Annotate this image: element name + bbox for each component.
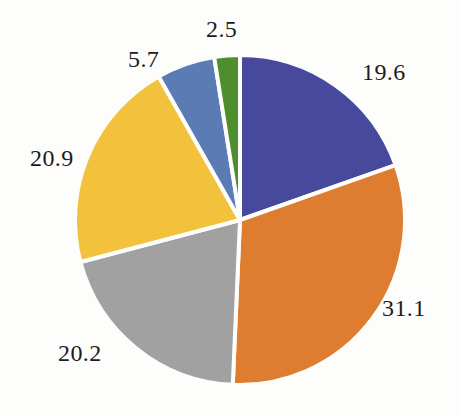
pie-label-5-7: 5.7 <box>128 47 159 71</box>
pie-label-31-1: 31.1 <box>382 296 426 320</box>
pie-slices-group <box>75 55 405 385</box>
pie-chart-figure: 19.6 31.1 20.2 20.9 5.7 2.5 <box>0 0 459 416</box>
pie-label-19-6: 19.6 <box>362 60 406 84</box>
pie-label-2-5: 2.5 <box>206 17 237 41</box>
pie-label-20-9: 20.9 <box>30 146 74 170</box>
pie-label-20-2: 20.2 <box>58 341 102 365</box>
